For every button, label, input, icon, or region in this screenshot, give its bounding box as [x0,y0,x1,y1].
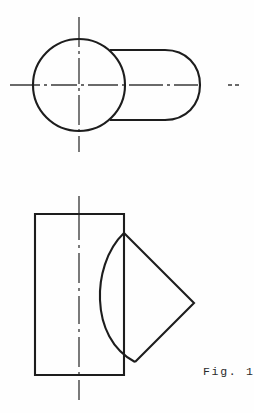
technical-drawing-canvas: Fig. 1 [0,0,254,413]
front-view-group [10,17,243,152]
side-view-group [35,196,194,400]
figure-caption: Fig. 1 [203,365,254,378]
branch-intersection-curve [100,233,135,362]
drawing-sheet: Fig. 1 [0,0,254,413]
angled-branch-outline [124,233,194,362]
